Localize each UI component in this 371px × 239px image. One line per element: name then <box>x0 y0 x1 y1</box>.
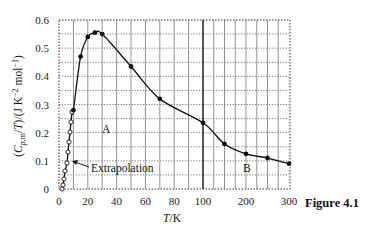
y-tick-label: 0 <box>44 183 50 195</box>
data-point-filled <box>78 54 83 59</box>
data-point-open <box>63 169 67 173</box>
y-tick-label: 0.2 <box>35 127 49 139</box>
data-point-filled <box>100 32 105 37</box>
x-tick-label: 20 <box>82 195 94 207</box>
x-tick-label: 100 <box>195 195 212 207</box>
figure-caption: Figure 4.1 <box>305 196 359 211</box>
data-point-filled <box>265 156 270 161</box>
data-point-open <box>62 177 66 181</box>
annotation-extrapolation: Extrapolation <box>91 162 154 175</box>
x-tick-label: 200 <box>238 195 255 207</box>
y-tick-label: 0.6 <box>35 14 49 26</box>
y-tick-label: 0.3 <box>35 99 49 111</box>
x-tick-label: 60 <box>140 195 152 207</box>
data-point-filled <box>244 151 249 156</box>
data-point-open <box>65 161 69 165</box>
data-point-filled <box>201 120 206 125</box>
x-tick-labels: 020406080100200300 <box>56 195 298 207</box>
x-tick-label: 80 <box>169 195 181 207</box>
data-point-filled <box>129 64 134 69</box>
data-point-open <box>68 130 72 134</box>
data-point-open <box>66 150 70 154</box>
data-point-open <box>69 120 73 124</box>
x-tick-label: 0 <box>56 195 62 207</box>
annotation-A: A <box>102 123 111 135</box>
data-point-filled <box>222 142 227 147</box>
x-axis-title: T/K <box>163 212 182 224</box>
annotation-B: B <box>243 162 251 174</box>
y-tick-labels: 00.10.20.30.40.50.6 <box>35 14 49 195</box>
y-tick-label: 0.4 <box>35 70 49 82</box>
data-point-filled <box>287 161 292 166</box>
extrapolation-arrow <box>75 162 89 167</box>
data-point-filled <box>71 108 76 113</box>
y-axis-title: (Cp,m/T)/(J K−2 mol−1) <box>11 55 27 157</box>
y-tick-label: 0.5 <box>35 42 49 54</box>
data-point-filled <box>85 35 90 40</box>
y-tick-label: 0.1 <box>35 155 49 167</box>
x-tick-label: 40 <box>111 195 123 207</box>
data-point-open <box>67 140 71 144</box>
data-point-filled <box>157 96 162 101</box>
data-point-open <box>61 183 65 187</box>
data-point-open <box>60 187 64 191</box>
x-tick-label: 300 <box>281 195 298 207</box>
data-point-filled <box>93 30 98 35</box>
